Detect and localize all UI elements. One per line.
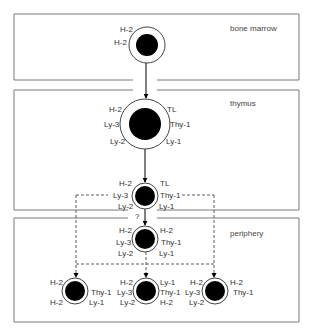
cell-nucleus (65, 281, 85, 301)
t-cell-differentiation-diagram: bone marrowthymusperiphery H-2H-2H-2Ly-3… (0, 0, 310, 330)
cell-nucleus (129, 108, 161, 140)
surface-marker-label: Ly-3 (116, 238, 132, 247)
cell-peripheral-t-cell: H-2Ly-3Ly-2H-2Thy-1Ly-1 (116, 226, 182, 258)
surface-marker-label: Ly-3 (104, 120, 120, 129)
arrowhead-icon (74, 273, 79, 278)
arrowhead-icon (212, 273, 217, 278)
surface-marker-label: Thy-1 (170, 120, 191, 129)
cell-thymocyte-mature: H-2Ly-3Ly-2TLThy-1Ly-1 (113, 179, 181, 211)
surface-marker-label: H-2 (160, 226, 173, 235)
surface-marker-label: H-2 (190, 278, 203, 287)
surface-marker-label: H-2 (120, 25, 133, 34)
surface-marker-label: Ly-1 (166, 137, 182, 146)
cell-helper-t-cell: H-2H-2Thy-1Ly-1 (50, 278, 112, 307)
surface-marker-label: Thy-1 (160, 191, 181, 200)
surface-marker-label: Ly-2 (110, 137, 126, 146)
uncertain-pathway-label: ? (135, 212, 140, 221)
surface-marker-label: H-2 (50, 278, 63, 287)
surface-marker-label: Ly-1 (89, 298, 105, 307)
cell-bone-marrow-precursor: H-2H-2 (114, 25, 165, 63)
surface-marker-label: Thy-1 (233, 288, 254, 297)
surface-marker-label: H-2 (119, 179, 132, 188)
surface-marker-label: H-2 (114, 38, 127, 47)
surface-marker-label: Ly-1 (160, 278, 176, 287)
surface-marker-label: Ly-3 (113, 191, 129, 200)
surface-marker-label: Ly-1 (159, 249, 175, 258)
surface-marker-label: Ly-2 (118, 202, 134, 211)
surface-marker-label: H-2 (120, 278, 133, 287)
region-label: periphery (230, 229, 263, 238)
cell-ly123-t-cell: H-2Ly-3Ly-2Ly-1Thy-1H-2 (117, 278, 181, 307)
surface-marker-label: Thy-1 (91, 288, 112, 297)
cell-thymocyte-large: H-2Ly-3Ly-2TLThy-1Ly-1 (104, 99, 191, 149)
surface-marker-label: TL (167, 105, 177, 114)
surface-marker-label: H-2 (160, 298, 173, 307)
cell-nucleus (136, 281, 156, 301)
surface-marker-label: Ly-2 (189, 298, 205, 307)
cell-nucleus (205, 281, 225, 301)
surface-marker-label: H-2 (50, 298, 63, 307)
surface-marker-label: Ly-1 (159, 202, 175, 211)
surface-marker-label: Ly-2 (120, 298, 136, 307)
surface-marker-label: Ly-3 (117, 288, 133, 297)
surface-marker-label: H-2 (119, 226, 132, 235)
surface-marker-label: TL (160, 179, 170, 188)
region-label: thymus (230, 99, 256, 108)
cell-killer-t-cell: H-2Ly-3Ly-2H-2Thy-1 (185, 278, 254, 307)
surface-marker-label: Thy-1 (160, 288, 181, 297)
cell-nucleus (136, 34, 158, 56)
surface-marker-label: Thy-1 (161, 238, 182, 247)
surface-marker-label: Ly-2 (118, 249, 134, 258)
surface-marker-label: H-2 (230, 278, 243, 287)
region-label: bone marrow (230, 24, 277, 33)
surface-marker-label: H-2 (109, 105, 122, 114)
cells: H-2H-2H-2Ly-3Ly-2TLThy-1Ly-1H-2Ly-3Ly-2T… (50, 25, 254, 307)
cell-nucleus (135, 229, 155, 249)
arrowhead-icon (144, 273, 149, 278)
cell-nucleus (135, 186, 155, 206)
surface-marker-label: Ly-3 (185, 288, 201, 297)
